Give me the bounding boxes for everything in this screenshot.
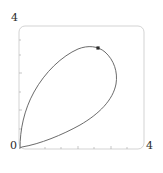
plot-frame	[19, 26, 144, 149]
y-axis-ticks	[19, 40, 22, 129]
plot-canvas	[0, 0, 163, 173]
x-axis-max-label: 4	[146, 140, 153, 151]
x-axis-ticks	[45, 146, 127, 149]
origin-label: 0	[10, 140, 17, 151]
parametric-plot-figure: 4 0 4	[0, 0, 163, 173]
parametric-curve	[20, 47, 117, 148]
y-axis-max-label: 4	[11, 12, 18, 23]
curve-point-marker	[96, 46, 99, 49]
